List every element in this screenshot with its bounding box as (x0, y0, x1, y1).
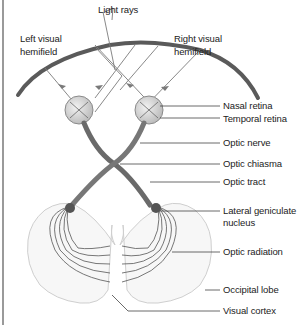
visual-pathway-diagram: Light rays Left visual hemifield Right v… (0, 0, 298, 325)
label-occipital-lobe: Occipital lobe (223, 284, 279, 295)
label-optic-radiation: Optic radiation (223, 246, 283, 257)
label-visual-cortex: Visual cortex (223, 305, 276, 316)
label-right-hemifield-2: hemifield (174, 46, 211, 57)
light-rays (45, 8, 200, 112)
label-lgn-2: nucleus (223, 217, 255, 228)
label-right-hemifield-1: Right visual (174, 33, 222, 44)
label-optic-tract: Optic tract (223, 176, 265, 187)
right-occipital-lobe (120, 203, 212, 303)
left-occipital-lobe (28, 203, 116, 303)
label-optic-chiasma: Optic chiasma (223, 158, 282, 169)
label-left-hemifield-1: Left visual (20, 33, 62, 44)
label-left-hemifield-2: hemifield (20, 46, 57, 57)
label-optic-nerve: Optic nerve (223, 137, 270, 148)
lgn-right (151, 203, 161, 213)
lgn-left (65, 203, 75, 213)
label-lgn-1: Lateral geniculate (223, 205, 296, 216)
label-light-rays: Light rays (98, 4, 138, 15)
label-temporal-retina: Temporal retina (223, 113, 287, 124)
label-nasal-retina: Nasal retina (223, 100, 273, 111)
